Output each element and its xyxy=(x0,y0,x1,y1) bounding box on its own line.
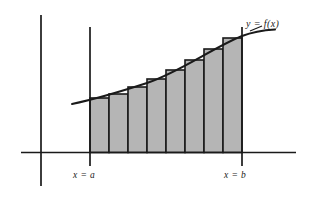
figure-canvas xyxy=(0,0,310,199)
riemann-rectangle xyxy=(128,87,147,153)
riemann-rectangle xyxy=(185,60,204,153)
riemann-rectangle xyxy=(147,79,166,153)
label-x-equals-b: x = b xyxy=(224,170,246,180)
riemann-rectangle xyxy=(109,94,128,153)
label-x-equals-a: x = a xyxy=(73,170,95,180)
riemann-rectangle xyxy=(223,38,242,153)
riemann-sum-figure: x = a x = b y = f(x) xyxy=(0,0,310,199)
riemann-rectangles xyxy=(90,38,242,153)
riemann-rectangle xyxy=(166,70,185,153)
label-y-equals-f-of-x: y = f(x) xyxy=(246,18,279,29)
riemann-rectangle xyxy=(90,98,109,153)
riemann-rectangle xyxy=(204,49,223,153)
